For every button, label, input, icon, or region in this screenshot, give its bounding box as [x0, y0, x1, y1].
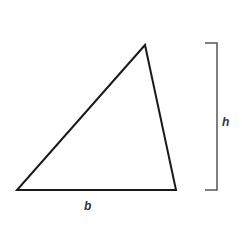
triangle-diagram: b h	[0, 0, 242, 245]
triangle-shape	[17, 45, 176, 190]
height-bracket	[205, 43, 217, 190]
height-label: h	[222, 115, 229, 129]
base-label: b	[84, 199, 91, 213]
